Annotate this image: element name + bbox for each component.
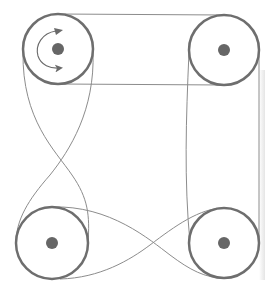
belt-segment-right-inner (186, 52, 190, 243)
belt-segment-upper-middle (60, 84, 224, 85)
pulley-top-right (189, 15, 259, 85)
belt-pulley-diagram (0, 0, 265, 291)
pulley-hub (218, 237, 230, 249)
pulley-hub (52, 43, 64, 55)
pulley-hub (46, 237, 58, 249)
pulley-bottom-left (16, 207, 88, 279)
pulley-top-left (23, 14, 93, 84)
pulley-hub (218, 44, 230, 56)
page-edge-shadow (259, 70, 265, 280)
pulley-bottom-right (189, 208, 259, 278)
belt-segment-top (58, 14, 224, 15)
